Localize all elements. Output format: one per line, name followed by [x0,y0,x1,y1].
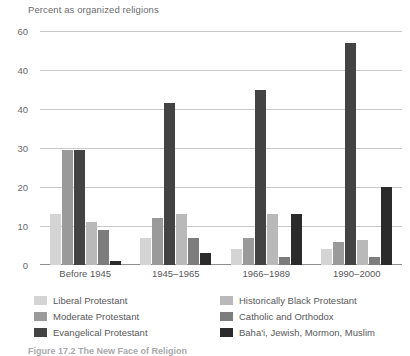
bar [279,257,290,265]
figure-caption: Figure 17.2 The New Face of Religion [28,346,187,356]
bar [176,214,187,265]
plot-area: 6040403020100 [40,31,402,265]
legend-item: Evangelical Protestant [34,324,220,340]
legend-label: Evangelical Protestant [53,327,148,338]
bar [357,240,368,265]
bar-group-bars [221,31,312,265]
legend-item: Moderate Protestant [34,308,220,324]
bar [50,214,61,265]
bar [86,222,97,265]
x-axis-label: 1966–1989 [221,268,312,279]
x-axis-label: 1945–1965 [131,268,222,279]
chart-legend: Liberal ProtestantModerate ProtestantEva… [34,292,406,340]
legend-label: Moderate Protestant [53,311,139,322]
x-axis-labels: Before 19451945–19651966–19891990–2000 [40,268,402,279]
legend-item: Historically Black Protestant [220,292,406,308]
x-axis-label: 1990–2000 [312,268,403,279]
bar [255,90,266,266]
legend-swatch [220,296,233,305]
bar [231,249,242,265]
bar [291,214,302,265]
legend-label: Catholic and Orthodox [239,311,334,322]
bar-group-bars [131,31,222,265]
bar-group [40,31,131,265]
bar [381,187,392,265]
legend-item: Liberal Protestant [34,292,220,308]
legend-item: Baha'i, Jewish, Mormon, Muslim [220,324,406,340]
bar [333,242,344,265]
bar [345,43,356,265]
bar [62,150,73,265]
legend-swatch [220,328,233,337]
bar-group [221,31,312,265]
x-axis-label: Before 1945 [40,268,131,279]
bar-group-bars [40,31,131,265]
y-axis-tick-label: 0 [0,260,28,271]
bar [98,230,109,265]
bar [74,150,85,265]
bar-group-bars [312,31,403,265]
legend-label: Liberal Protestant [53,295,127,306]
bar [243,238,254,265]
y-axis-tick-label: 40 [0,104,28,115]
chart-axis-title: Percent as organized religions [28,4,159,15]
bar [267,214,278,265]
y-axis-tick-label: 60 [0,26,28,37]
legend-swatch [34,296,47,305]
bar-groups [40,31,402,265]
legend-swatch [34,312,47,321]
bar [140,238,151,265]
bar-group [131,31,222,265]
legend-label: Baha'i, Jewish, Mormon, Muslim [239,327,375,338]
bar [321,249,332,265]
y-axis-tick-label: 20 [0,182,28,193]
bar [152,218,163,265]
bar [369,257,380,265]
bar [188,238,199,265]
bar-group [312,31,403,265]
bar [110,261,121,265]
y-axis-tick-label: 40 [0,65,28,76]
legend-swatch [34,328,47,337]
legend-swatch [220,312,233,321]
y-axis-tick-label: 30 [0,143,28,154]
y-axis-tick-label: 10 [0,221,28,232]
bar [164,103,175,265]
legend-column-left: Liberal ProtestantModerate ProtestantEva… [34,292,220,340]
legend-column-right: Historically Black ProtestantCatholic an… [220,292,406,340]
bar [200,253,211,265]
legend-label: Historically Black Protestant [239,295,357,306]
legend-item: Catholic and Orthodox [220,308,406,324]
